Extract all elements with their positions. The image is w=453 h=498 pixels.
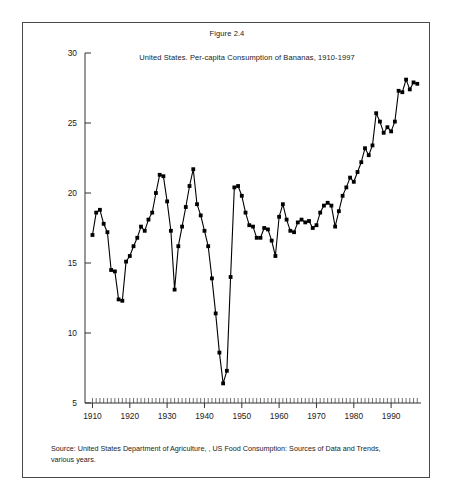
data-point-marker (296, 221, 300, 225)
data-point-marker (214, 312, 218, 316)
data-point-marker (337, 209, 341, 213)
data-point-marker (143, 229, 147, 233)
data-point-marker (225, 369, 229, 373)
data-point-marker (210, 277, 214, 281)
y-tick-label: 20 (68, 188, 78, 198)
data-point-marker (259, 236, 263, 240)
data-point-marker (176, 244, 180, 248)
data-point-marker (374, 111, 378, 115)
data-point-marker (404, 78, 408, 82)
x-tick-label: 1980 (344, 411, 363, 421)
plot-area: 51015202530 1910192019301940195019601970… (23, 23, 431, 423)
data-point-marker (277, 215, 281, 219)
source-note: Source: United States Department of Agri… (51, 443, 401, 465)
x-axis: 191019201930194019501960197019801990 (83, 398, 421, 421)
data-point-marker (139, 225, 143, 229)
data-point-marker (203, 229, 207, 233)
data-point-marker (281, 202, 285, 206)
data-point-marker (255, 236, 259, 240)
x-tick-label: 1940 (195, 411, 214, 421)
data-point-marker (206, 244, 210, 248)
y-tick-label: 5 (72, 398, 77, 408)
data-point-marker (292, 230, 296, 234)
data-point-marker (311, 226, 315, 230)
data-point-marker (117, 298, 121, 302)
data-point-marker (322, 204, 326, 208)
data-point-marker (266, 228, 270, 232)
data-point-marker (389, 130, 393, 134)
data-point-marker (232, 186, 236, 190)
data-point-marker (154, 191, 158, 195)
x-tick-label: 1930 (158, 411, 177, 421)
data-point-marker (180, 225, 184, 229)
data-point-marker (109, 268, 113, 272)
data-point-marker (135, 236, 139, 240)
data-point-marker (326, 201, 330, 205)
data-point-marker (300, 218, 304, 222)
data-point-marker (344, 186, 348, 190)
data-point-marker (393, 120, 397, 124)
data-point-marker (341, 194, 345, 198)
y-tick-label: 30 (68, 48, 78, 58)
data-point-marker (191, 167, 195, 171)
data-point-marker (352, 180, 356, 184)
data-point-marker (195, 202, 199, 206)
data-point-marker (274, 254, 278, 258)
data-point-marker (120, 299, 124, 303)
data-point-marker (408, 88, 412, 92)
data-point-marker (262, 226, 266, 230)
data-point-marker (318, 211, 322, 215)
data-point-marker (169, 229, 173, 233)
data-point-marker (285, 218, 289, 222)
data-point-marker (348, 176, 352, 180)
data-point-marker (315, 223, 319, 227)
data-point-marker (173, 288, 177, 292)
data-point-marker (382, 131, 386, 135)
data-point-marker (307, 219, 311, 223)
data-point-marker (330, 204, 334, 208)
data-point-marker (128, 254, 132, 258)
data-point-marker (333, 225, 337, 229)
chart-svg: 51015202530 1910192019301940195019601970… (23, 23, 431, 423)
data-point-marker (229, 275, 233, 279)
data-point-marker (363, 146, 367, 150)
data-point-marker (221, 382, 225, 386)
data-point-marker (150, 211, 154, 215)
data-point-marker (94, 211, 98, 215)
data-point-marker (371, 144, 375, 148)
data-point-marker (270, 239, 274, 243)
data-point-marker (147, 218, 151, 222)
data-point-marker (98, 208, 102, 212)
data-series-bananas (91, 78, 420, 386)
y-tick-label: 25 (68, 118, 78, 128)
data-point-marker (303, 221, 307, 225)
data-point-marker (113, 270, 117, 274)
data-point-marker (415, 82, 419, 86)
data-point-marker (359, 160, 363, 164)
data-point-marker (400, 90, 404, 94)
data-point-marker (162, 174, 166, 178)
data-point-marker (132, 244, 136, 248)
data-point-marker (288, 229, 292, 233)
data-point-marker (356, 170, 360, 174)
data-point-marker (199, 214, 203, 218)
data-point-marker (247, 223, 251, 227)
x-tick-label: 1950 (232, 411, 251, 421)
data-point-marker (244, 211, 248, 215)
y-tick-label: 15 (68, 258, 78, 268)
data-point-marker (91, 233, 95, 237)
data-point-marker (386, 125, 390, 129)
x-tick-label: 1970 (307, 411, 326, 421)
data-point-marker (165, 200, 169, 204)
figure-frame: Figure 2.4 United States. Per-capita Con… (22, 22, 430, 478)
data-point-marker (378, 120, 382, 124)
data-point-marker (397, 89, 401, 93)
data-point-marker (218, 351, 222, 355)
data-point-marker (236, 184, 240, 188)
x-tick-label: 1990 (382, 411, 401, 421)
data-point-marker (106, 230, 110, 234)
data-point-marker (188, 184, 192, 188)
data-point-marker (367, 153, 371, 157)
data-point-marker (412, 81, 416, 85)
x-tick-label: 1910 (83, 411, 102, 421)
